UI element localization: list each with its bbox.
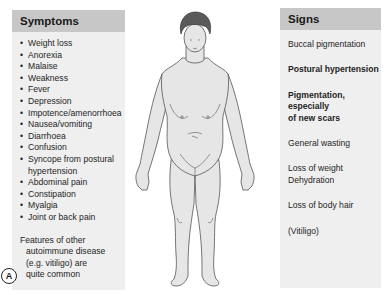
sign-item: Dehydration xyxy=(280,175,381,186)
list-item: Anorexia xyxy=(20,50,125,62)
sign-item: Loss of weight xyxy=(280,163,381,174)
list-item: Depression xyxy=(20,96,125,108)
list-item: Abdominal pain xyxy=(20,177,125,189)
list-item: Weight loss xyxy=(20,38,125,50)
list-item: Syncope from posturalhypertension xyxy=(20,154,125,177)
list-item-continuation: hypertension xyxy=(28,166,77,176)
note-line: (e.g. vitiligo) are xyxy=(20,258,125,270)
signs-panel: Signs Buccal pigmentation Postural hyper… xyxy=(280,8,381,288)
note-line: Features of other xyxy=(20,235,125,247)
body-figure xyxy=(130,4,260,292)
symptoms-title: Symptoms xyxy=(12,10,125,32)
list-item: Confusion xyxy=(20,142,125,154)
sign-item: General wasting xyxy=(280,138,381,149)
panel-label: A xyxy=(1,268,17,284)
sign-item: (Vitiligo) xyxy=(280,226,381,237)
symptoms-list: Weight loss Anorexia Malaise Weakness Fe… xyxy=(12,38,125,224)
signs-title: Signs xyxy=(280,8,381,30)
list-item: Myalgia xyxy=(20,200,125,212)
autoimmune-note: Features of other autoimmune disease (e.… xyxy=(20,235,125,281)
female-body-illustration xyxy=(130,4,260,292)
list-item: Joint or back pain xyxy=(20,212,125,224)
list-item: Nausea/vomiting xyxy=(20,119,125,131)
sign-item: of new scars xyxy=(280,113,381,124)
sign-item: Postural hypertension xyxy=(280,64,381,75)
sign-item: Loss of body hair xyxy=(280,200,381,211)
sign-item: Buccal pigmentation xyxy=(280,39,381,50)
list-item: Malaise xyxy=(20,61,125,73)
list-item: Diarrhoea xyxy=(20,131,125,143)
note-line: quite common xyxy=(20,269,125,281)
symptoms-panel: Symptoms Weight loss Anorexia Malaise We… xyxy=(12,10,125,290)
note-line: autoimmune disease xyxy=(20,246,125,258)
list-item-text: Syncope from postural xyxy=(28,154,114,164)
list-item: Constipation xyxy=(20,189,125,201)
sign-item: Pigmentation, especially xyxy=(280,90,381,113)
list-item: Weakness xyxy=(20,73,125,85)
list-item: Fever xyxy=(20,84,125,96)
list-item: Impotence/amenorrhoea xyxy=(20,108,125,120)
